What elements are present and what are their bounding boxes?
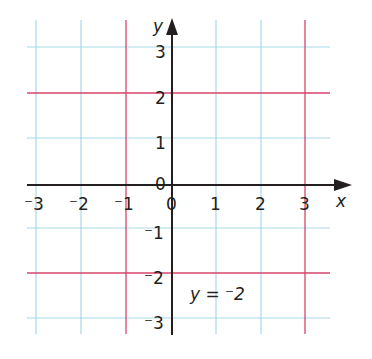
y-tick-2: 2 xyxy=(155,88,166,108)
x-tick-neg2: ⁻2 xyxy=(69,194,89,214)
y-axis-arrow-icon xyxy=(166,18,178,35)
y-tick-3: 3 xyxy=(155,42,166,62)
x-tick-neg3: ⁻3 xyxy=(24,194,44,214)
axes xyxy=(27,30,340,335)
x-tick-labels: ⁻3 ⁻2 ⁻1 0 1 2 3 xyxy=(24,194,310,214)
coordinate-graph: x y ⁻3 ⁻2 ⁻1 0 1 2 3 3 2 1 0 ⁻1 ⁻2 ⁻3 y … xyxy=(0,0,372,359)
grid-horizontal-lines xyxy=(27,47,330,318)
y-tick-1: 1 xyxy=(155,133,166,153)
annotation-text: y = ⁻2 xyxy=(189,284,245,304)
y-tick-neg3: ⁻3 xyxy=(144,313,164,333)
y-tick-neg2: ⁻2 xyxy=(144,268,164,288)
x-tick-2: 2 xyxy=(255,194,266,214)
x-tick-1: 1 xyxy=(210,194,221,214)
line-equation-label: y = ⁻2 xyxy=(189,284,245,304)
x-tick-neg1: ⁻1 xyxy=(114,194,134,214)
y-tick-neg1: ⁻1 xyxy=(144,223,164,243)
y-tick-labels: 3 2 1 0 ⁻1 ⁻2 ⁻3 xyxy=(144,42,166,333)
y-tick-zero: 0 xyxy=(155,174,166,194)
highlighted-lines xyxy=(27,20,330,334)
x-tick-zero: 0 xyxy=(166,194,177,214)
x-axis-arrow-icon xyxy=(334,179,352,191)
x-axis-label: x xyxy=(335,191,347,211)
y-axis-label: y xyxy=(152,16,164,36)
x-tick-3: 3 xyxy=(299,194,310,214)
